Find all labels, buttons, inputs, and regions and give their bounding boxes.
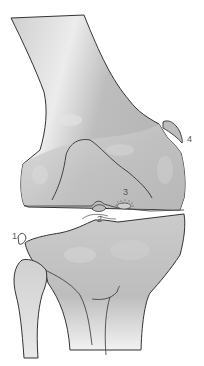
label-3: 3 [123, 188, 128, 197]
femur [11, 15, 185, 210]
label-1: 1 [12, 232, 17, 241]
label-4: 4 [187, 135, 192, 144]
label-2: 2 [97, 215, 102, 224]
knee-joint-illustration [0, 0, 204, 366]
fibula [14, 259, 47, 358]
tibia [25, 214, 185, 355]
